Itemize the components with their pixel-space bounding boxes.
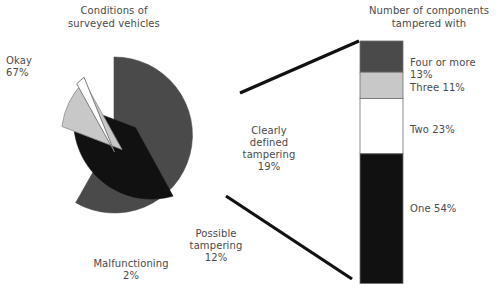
bar-label-four-or-more: Four or more 13% [410, 57, 496, 81]
chart-figure: Conditions of surveyed vehicles Number o… [0, 0, 496, 293]
bar-label-one: One 54% [410, 203, 456, 215]
pie-label-possible-tampering: Possible tampering 12% [178, 228, 254, 264]
pie-label-okay: Okay 67% [6, 55, 64, 79]
bar-label-three: Three 11% [410, 82, 465, 94]
bar-chart-title: Number of components tampered with [362, 5, 496, 30]
pie-chart-title: Conditions of surveyed vehicles [34, 5, 194, 30]
pie-label-clearly-defined-tampering: Clearly defined tampering 19% [234, 125, 304, 173]
pie-label-malfunctioning: Malfunctioning 2% [86, 258, 176, 282]
bar-segment-one [360, 154, 403, 284]
bar-label-two: Two 23% [410, 124, 455, 136]
bar-segment-two [360, 99, 403, 154]
bar-segment-three [360, 72, 403, 98]
bar-segment-four-or-more [360, 41, 403, 72]
callout-line-upper [240, 41, 359, 93]
